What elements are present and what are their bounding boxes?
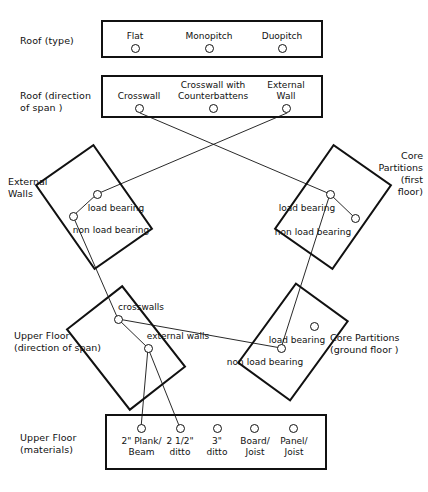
option-circle[interactable]: [282, 104, 291, 113]
option-circle[interactable]: [114, 315, 123, 324]
option-circle[interactable]: [213, 424, 222, 433]
wire-crosswall-to-core-load-bearing: [140, 113, 330, 194]
diagram-canvas: Roof (type) Flat Monopitch Duopitch Roof…: [0, 0, 428, 492]
row-label-core-partitions-first-floor: Core Partitions (first floor): [355, 150, 423, 198]
row-label-external-walls: External Walls: [8, 176, 66, 200]
option-label: Board/ Joist: [233, 436, 277, 457]
option-label: load bearing: [77, 203, 155, 214]
option-label: Monopitch: [179, 31, 239, 42]
option-circle[interactable]: [205, 44, 214, 53]
option-label: non load bearing: [263, 227, 363, 238]
option-circle[interactable]: [176, 424, 185, 433]
option-label: load bearing: [258, 335, 336, 346]
row-label-upper-floor-materials: Upper Floor (materials): [20, 432, 115, 456]
option-label: Duopitch: [252, 31, 312, 42]
option-circle[interactable]: [93, 190, 102, 199]
option-circle[interactable]: [289, 424, 298, 433]
option-label: load bearing: [268, 203, 346, 214]
option-circle[interactable]: [137, 424, 146, 433]
option-label: external walls: [138, 331, 218, 342]
option-circle[interactable]: [144, 344, 153, 353]
option-circle[interactable]: [250, 424, 259, 433]
option-circle[interactable]: [277, 344, 286, 353]
wire-external-wall-to-extwalls-load-bearing: [97, 113, 287, 194]
option-circle[interactable]: [131, 44, 140, 53]
option-label: non load bearing: [215, 357, 315, 368]
option-circle[interactable]: [310, 322, 319, 331]
option-label: non load bearing: [61, 225, 161, 236]
option-label: Panel/ Joist: [272, 436, 316, 457]
row-label-upper-floor-span: Upper Floor (direction of span): [14, 330, 106, 354]
option-label: 2 1/2" ditto: [160, 436, 200, 457]
option-label: Crosswall: [106, 91, 172, 102]
option-label: External Wall: [260, 80, 312, 101]
option-label: Crosswall with Counterbattens: [172, 80, 254, 101]
option-circle[interactable]: [69, 212, 78, 221]
option-circle[interactable]: [135, 104, 144, 113]
option-label: 3" ditto: [199, 436, 235, 457]
option-circle[interactable]: [326, 190, 335, 199]
option-circle[interactable]: [351, 214, 360, 223]
row-label-core-partitions-ground-floor: Core Partitions (ground floor ): [330, 332, 428, 356]
option-circle[interactable]: [278, 44, 287, 53]
option-label: crosswalls: [108, 302, 174, 313]
option-circle[interactable]: [209, 104, 218, 113]
option-label: Flat: [105, 31, 165, 42]
